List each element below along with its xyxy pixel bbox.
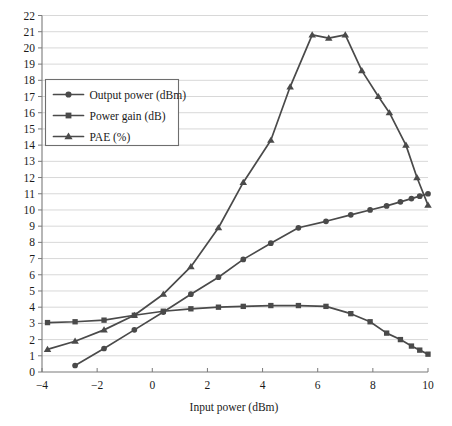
line-chart: 012345678910111213141516171819202122 −4−… — [0, 0, 452, 426]
chart-legend: Output power (dBm)Power gain (dB)PAE (%) — [46, 80, 187, 146]
y-tick-label: 17 — [24, 91, 36, 103]
data-point-marker — [367, 207, 373, 213]
data-point-marker — [384, 330, 389, 335]
data-point-marker — [268, 303, 273, 308]
data-point-marker — [417, 347, 422, 352]
y-tick-label: 18 — [24, 74, 36, 86]
data-point-marker — [241, 304, 246, 309]
y-tick-label: 14 — [24, 139, 36, 151]
data-point-marker — [342, 31, 350, 37]
data-point-marker — [161, 309, 166, 314]
y-tick-label: 20 — [24, 42, 36, 54]
data-point-marker — [413, 174, 421, 180]
data-point-marker — [308, 31, 316, 37]
y-tick-label: 9 — [29, 220, 35, 232]
data-point-marker — [323, 304, 328, 309]
data-point-marker — [409, 343, 414, 348]
x-tick-label: −2 — [91, 379, 103, 391]
legend-item-label: Output power (dBm) — [90, 89, 187, 102]
y-tick-label: 21 — [24, 26, 36, 38]
chart-container: 012345678910111213141516171819202122 −4−… — [0, 0, 452, 426]
data-point-marker — [424, 202, 432, 208]
y-tick-label: 4 — [29, 301, 35, 313]
y-tick-label: 11 — [24, 188, 35, 200]
y-axis-tick-labels: 012345678910111213141516171819202122 — [24, 10, 36, 379]
data-point-marker — [188, 291, 194, 297]
y-tick-label: 16 — [24, 107, 36, 119]
x-tick-label: 6 — [315, 379, 321, 391]
data-point-marker — [240, 257, 246, 263]
x-axis-title: Input power (dBm) — [190, 401, 279, 414]
data-point-marker — [398, 199, 404, 205]
y-tick-label: 7 — [29, 253, 35, 265]
data-point-marker — [358, 67, 366, 73]
y-tick-label: 6 — [29, 269, 35, 281]
x-tick-label: 10 — [422, 379, 434, 391]
series-circle — [72, 191, 431, 368]
legend-item-label: Power gain (dB) — [90, 110, 166, 123]
y-tick-label: 12 — [24, 172, 36, 184]
y-tick-label: 15 — [24, 123, 36, 135]
x-tick-label: 4 — [260, 379, 266, 391]
data-point-marker — [215, 224, 223, 230]
y-tick-label: 19 — [24, 58, 36, 70]
data-point-marker — [417, 193, 423, 199]
data-point-marker — [348, 212, 354, 218]
y-tick-label: 22 — [24, 10, 36, 22]
y-tick-label: 1 — [29, 350, 35, 362]
data-point-marker — [425, 191, 431, 197]
data-point-marker — [267, 137, 275, 143]
data-point-marker — [348, 311, 353, 316]
data-point-marker — [409, 196, 415, 202]
data-point-marker — [286, 83, 294, 89]
data-point-marker — [384, 203, 390, 209]
y-tick-label: 13 — [24, 155, 36, 167]
y-tick-label: 3 — [29, 317, 35, 329]
x-tick-label: 2 — [205, 379, 211, 391]
data-point-marker — [367, 319, 372, 324]
data-point-marker — [65, 91, 71, 97]
data-point-marker — [216, 305, 221, 310]
data-point-marker — [296, 303, 301, 308]
data-point-marker — [101, 317, 106, 322]
y-tick-label: 10 — [24, 204, 36, 216]
y-tick-label: 2 — [29, 334, 35, 346]
y-tick-label: 0 — [29, 366, 35, 378]
x-tick-label: 0 — [149, 379, 155, 391]
y-tick-label: 8 — [29, 236, 35, 248]
legend-item-label: PAE (%) — [90, 131, 131, 144]
data-point-marker — [323, 218, 329, 224]
data-point-marker — [45, 320, 50, 325]
gridlines — [42, 16, 428, 356]
x-axis-tick-labels: −4−20246810 — [36, 379, 434, 391]
data-point-marker — [268, 240, 274, 246]
data-point-marker — [402, 142, 410, 148]
data-point-marker — [398, 337, 403, 342]
data-point-marker — [132, 327, 138, 333]
data-point-marker — [216, 274, 222, 280]
data-point-marker — [425, 352, 430, 357]
data-point-marker — [72, 319, 77, 324]
x-tick-label: −4 — [36, 379, 48, 391]
data-point-marker — [101, 346, 107, 352]
x-tick-label: 8 — [370, 379, 376, 391]
data-point-marker — [296, 225, 302, 231]
y-tick-label: 5 — [29, 285, 35, 297]
data-point-marker — [66, 113, 72, 119]
data-point-marker — [188, 306, 193, 311]
data-point-marker — [72, 363, 78, 369]
